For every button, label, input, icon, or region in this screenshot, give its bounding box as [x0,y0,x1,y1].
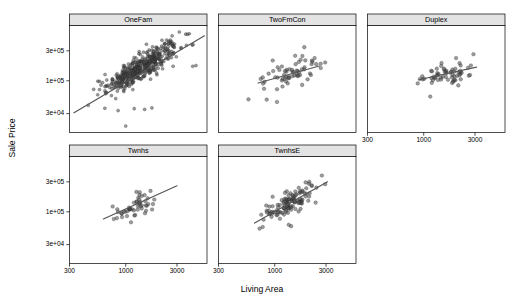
y-axis-title: Sale Price [7,118,17,157]
data-point [145,43,148,46]
data-point [160,62,163,65]
data-point [459,78,463,82]
data-point [278,68,282,72]
data-point [143,74,146,77]
data-point [164,47,167,50]
data-point [103,107,106,110]
data-point [191,65,194,68]
data-point [283,77,287,81]
data-point [160,39,163,42]
data-point [308,72,312,76]
data-point [139,53,142,56]
data-point [280,65,284,69]
data-point [99,84,102,87]
data-point [146,202,150,206]
data-point [457,84,461,88]
data-point [275,100,279,104]
data-point [290,68,294,72]
panel-strip-label: Duplex [425,15,448,24]
data-point [150,106,153,109]
data-point [435,67,439,71]
data-point [294,62,298,66]
data-point [133,56,136,59]
y-axis-tick-label: 3e+05 [46,47,65,54]
data-point [301,54,305,58]
data-point [161,67,164,70]
data-point [152,198,156,202]
data-point [308,180,312,184]
data-point [420,75,424,79]
data-point [264,204,268,208]
facet-panel: TwnhsE [219,145,357,264]
data-point [132,209,136,213]
x-axis-tick-label: 300 [362,136,373,143]
data-point [139,78,142,81]
data-point [294,193,298,197]
data-point [293,54,297,58]
data-point [440,61,444,65]
data-point [116,208,120,212]
data-point [172,45,175,48]
data-point [148,72,151,75]
data-point [135,190,139,194]
data-point [129,221,133,225]
data-point [306,199,310,203]
data-point [151,202,155,206]
data-point [416,82,420,86]
data-point [117,109,120,112]
data-point [148,62,151,65]
data-point [287,207,291,211]
data-point [164,42,167,45]
data-point [96,93,99,96]
data-point [299,58,303,62]
data-point [126,209,130,213]
data-point [286,82,290,86]
data-point [297,186,301,190]
y-axis-tick-label: 3e+05 [46,178,65,185]
data-point [299,191,303,195]
data-point [458,74,462,78]
data-point [114,97,117,100]
data-point [323,61,327,65]
data-point [175,55,178,58]
data-point [472,52,476,56]
data-point [130,69,133,72]
data-point [188,32,191,35]
data-point [92,88,95,91]
x-axis-tick-label: 3000 [170,267,185,274]
data-point [313,56,317,60]
data-point [304,186,308,190]
panel-strip-label: Twnhs [128,146,149,155]
data-point [150,208,154,212]
data-point [284,197,288,201]
data-point [110,94,113,97]
data-point [161,55,164,58]
data-point [143,108,146,111]
x-axis-tick-label: 1000 [267,267,282,274]
panels-group: OneFamTwoFmConDuplexTwnhsTwnhsE [70,14,506,264]
facet-panel: Duplex [368,14,506,133]
plot-canvas: OneFamTwoFmConDuplexTwnhsTwnhsE3e+041e+0… [0,0,525,302]
data-point [283,69,287,73]
facet-panel: Twnhs [70,145,208,264]
data-point [310,62,314,66]
data-point [142,51,145,54]
data-point [120,215,124,219]
data-point [152,61,155,64]
data-point [128,85,131,88]
data-point [137,59,140,62]
data-point [125,214,129,218]
data-point [261,76,265,80]
data-point [278,217,282,221]
x-axis-tick-label: 3000 [319,267,334,274]
data-point [138,190,142,194]
data-point [430,70,434,74]
panel-strip-label: TwnhsE [274,146,300,155]
data-point [136,208,140,212]
facet-panel: OneFam [70,14,208,133]
data-point [151,45,154,48]
data-point [319,62,323,66]
data-point [124,125,127,128]
data-point [148,48,151,51]
panel-strip-label: OneFam [124,15,152,24]
